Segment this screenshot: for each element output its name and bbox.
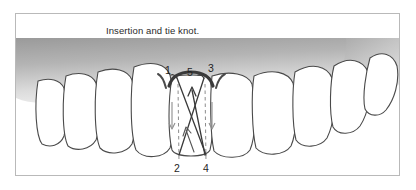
tooth-left-outer <box>36 79 67 146</box>
figure-page: Insertion and tie knot. <box>0 0 416 190</box>
label-1: 1 <box>165 64 171 76</box>
tooth-right-2 <box>252 72 296 154</box>
tooth-right-outer <box>364 54 398 115</box>
label-4: 4 <box>203 162 209 174</box>
tooth-right-3 <box>293 66 335 146</box>
tooth-left-1 <box>131 64 174 157</box>
label-3: 3 <box>208 62 214 74</box>
figure-frame: Insertion and tie knot. <box>15 13 400 176</box>
label-2: 2 <box>174 162 180 174</box>
label-5: 5 <box>187 66 193 78</box>
dental-suture-diagram: 1 5 3 2 4 <box>16 14 399 175</box>
tooth-left-2 <box>95 69 136 153</box>
